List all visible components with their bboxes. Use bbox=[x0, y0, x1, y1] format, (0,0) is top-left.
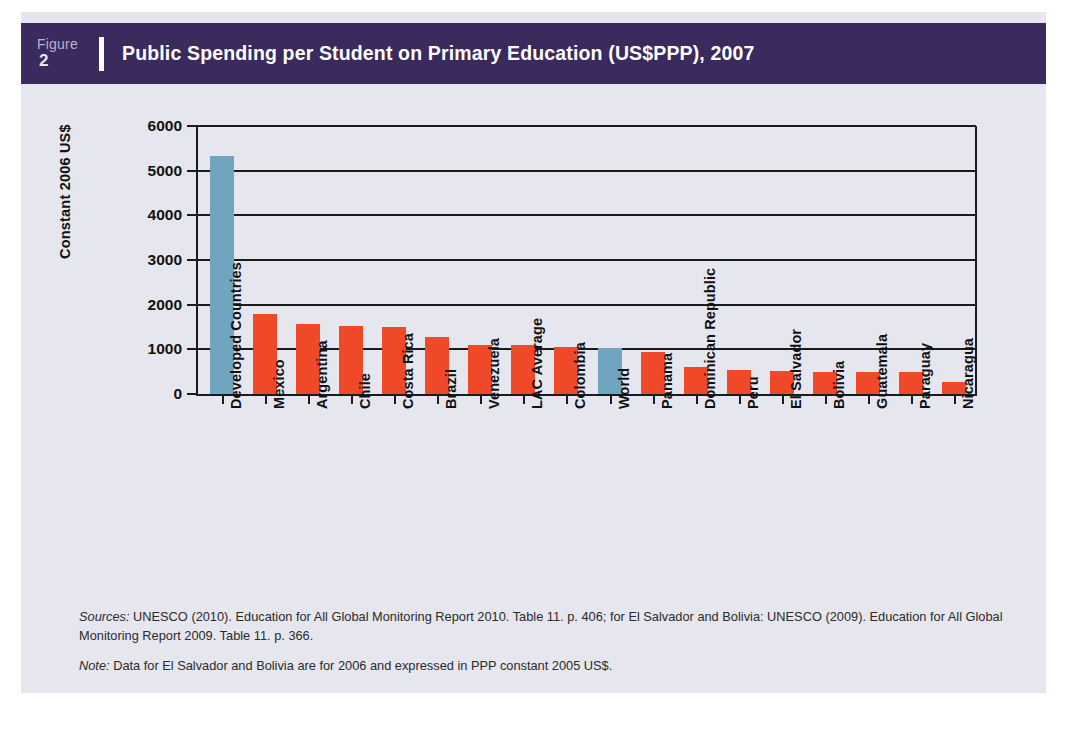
x-axis-tick-label: LAC Average bbox=[529, 318, 545, 409]
x-axis-tick bbox=[437, 396, 439, 404]
x-axis-tick bbox=[739, 396, 741, 404]
sources-label: Sources: bbox=[79, 609, 130, 624]
x-axis-tick bbox=[610, 396, 612, 404]
x-axis-tick bbox=[566, 396, 568, 404]
x-axis-tick-label: Paraguay bbox=[917, 343, 933, 409]
x-axis-tick bbox=[265, 396, 267, 404]
figure-word-label: Figure bbox=[37, 37, 99, 52]
x-axis-tick-label: Nicaragua bbox=[960, 338, 976, 409]
y-axis-tick-label: 5000 bbox=[148, 162, 182, 180]
x-axis-tick-label: Bolivia bbox=[831, 361, 847, 409]
x-axis-tick bbox=[394, 396, 396, 404]
x-axis-tick bbox=[480, 396, 482, 404]
x-axis-tick bbox=[954, 396, 956, 404]
figure-number-label: 2 bbox=[39, 52, 99, 70]
figure-panel: Figure 2 Public Spending per Student on … bbox=[21, 12, 1046, 693]
x-axis-tick-label: Guatemala bbox=[874, 334, 890, 409]
x-axis-tick bbox=[308, 396, 310, 404]
y-axis-tick bbox=[187, 348, 196, 350]
y-axis-tick bbox=[187, 304, 196, 306]
x-axis-tick-label: Dominican Republic bbox=[702, 268, 718, 409]
x-axis-tick-label: World bbox=[616, 368, 632, 409]
x-axis-tick-label: Mexico bbox=[271, 359, 287, 409]
x-axis-tick-label: Venezuela bbox=[486, 338, 502, 409]
y-axis-tick-label: 2000 bbox=[148, 296, 182, 314]
figure-header-band: Figure 2 Public Spending per Student on … bbox=[21, 23, 1046, 84]
x-axis-tick bbox=[696, 396, 698, 404]
x-axis-tick bbox=[222, 396, 224, 404]
x-axis-tick-label: Panama bbox=[659, 353, 675, 409]
y-axis-tick-label: 1000 bbox=[148, 340, 182, 358]
x-axis-tick-label: Argentina bbox=[314, 340, 330, 409]
note-line: Note: Data for El Salvador and Bolivia a… bbox=[79, 657, 1019, 676]
sources-note: Sources: UNESCO (2010). Education for Al… bbox=[79, 608, 1019, 645]
figure-title: Public Spending per Student on Primary E… bbox=[122, 42, 755, 65]
y-axis-tick bbox=[187, 170, 196, 172]
x-axis-tick bbox=[825, 396, 827, 404]
x-axis-tick-label: Chile bbox=[357, 373, 373, 409]
x-axis-tick-label: Brazil bbox=[443, 369, 459, 409]
y-axis-tick-label: 3000 bbox=[148, 251, 182, 269]
sources-text: UNESCO (2010). Education for All Global … bbox=[79, 609, 1003, 643]
y-axis-tick bbox=[187, 214, 196, 216]
x-axis-tick bbox=[351, 396, 353, 404]
x-axis-tick-label: Peru bbox=[745, 376, 761, 409]
footnotes: Sources: UNESCO (2010). Education for Al… bbox=[79, 608, 1019, 688]
x-axis-tick-label: El Salvador bbox=[788, 329, 804, 409]
x-axis-tick-label: Costa Rica bbox=[400, 333, 416, 409]
y-axis-title: Constant 2006 US$ bbox=[57, 124, 73, 259]
x-axis-tick bbox=[523, 396, 525, 404]
x-axis-tick-label: Developed Countries bbox=[228, 262, 244, 409]
note-text: Data for El Salvador and Bolivia are for… bbox=[110, 658, 613, 673]
note-label: Note: bbox=[79, 658, 110, 673]
x-axis-tick bbox=[911, 396, 913, 404]
bar-chart: Constant 2006 US$ 0100020003000400050006… bbox=[21, 84, 1046, 604]
x-axis-tick-label: Colombia bbox=[572, 342, 588, 409]
y-axis-tick bbox=[187, 125, 196, 127]
figure-number-block: Figure 2 bbox=[21, 37, 99, 71]
x-axis-tick bbox=[868, 396, 870, 404]
y-axis-tick bbox=[187, 259, 196, 261]
y-axis-tick-label: 4000 bbox=[148, 206, 182, 224]
y-axis-tick-label: 0 bbox=[173, 385, 182, 403]
header-divider-rule bbox=[99, 37, 104, 71]
x-axis-tick bbox=[653, 396, 655, 404]
y-axis-tick bbox=[187, 393, 196, 395]
x-axis-tick bbox=[782, 396, 784, 404]
y-axis-tick-label: 6000 bbox=[148, 117, 182, 135]
